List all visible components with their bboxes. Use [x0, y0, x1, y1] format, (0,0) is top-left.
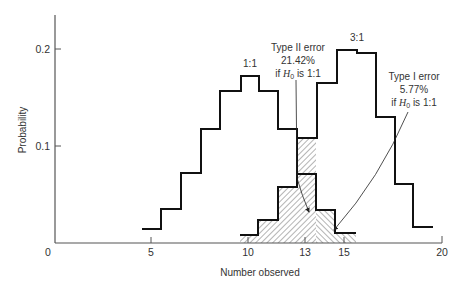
type-i-error-condition: if H0 is 1:1: [391, 97, 437, 109]
type-i-error-pointer: [334, 112, 408, 230]
series-label-1-1: 1:1: [243, 58, 257, 69]
type-i-error-percent: 5.77%: [400, 84, 428, 95]
x-tick-label-13: 13: [299, 246, 311, 258]
x-origin-label: 0: [45, 246, 51, 258]
type-ii-error-percent: 21.42%: [281, 55, 315, 66]
y-axis-title: Probability: [17, 107, 28, 154]
x-tick-label-15: 15: [338, 246, 350, 258]
type-i-error-label: Type I error: [388, 71, 440, 82]
y-tick-label-0.2: 0.2: [35, 43, 50, 55]
series-label-3-1: 3:1: [350, 32, 364, 43]
x-tick-label-10: 10: [242, 246, 254, 258]
type-ii-error-condition: if H0 is 1:1: [275, 68, 321, 80]
x-tick-label-20: 20: [436, 246, 448, 258]
binomial-histogram-chart: 0.2 0.1 0 5 10 13 15 20 Probability Numb…: [0, 0, 467, 289]
type-ii-error-label: Type II error: [271, 42, 326, 53]
x-tick-label-5: 5: [148, 246, 154, 258]
x-axis-title: Number observed: [220, 267, 299, 278]
y-tick-label-0.1: 0.1: [35, 140, 50, 152]
series-1-1-step-line: [142, 76, 356, 233]
